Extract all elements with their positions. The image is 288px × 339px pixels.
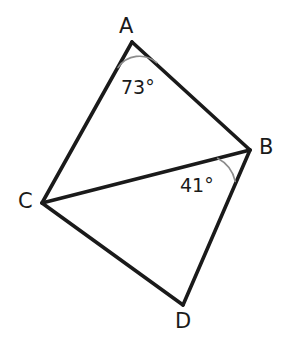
geometry-canvas [0,0,288,339]
vertex-label-d: D [175,311,191,332]
vertex-label-a: A [119,16,133,37]
angle-measure-label-a: 73° [121,78,155,97]
vertex-label-c: C [18,191,33,212]
vertex-label-b: B [259,137,273,158]
geometry-figure: A B C D 73° 41° [0,0,288,339]
angle-measure-label-b: 41° [180,176,214,195]
